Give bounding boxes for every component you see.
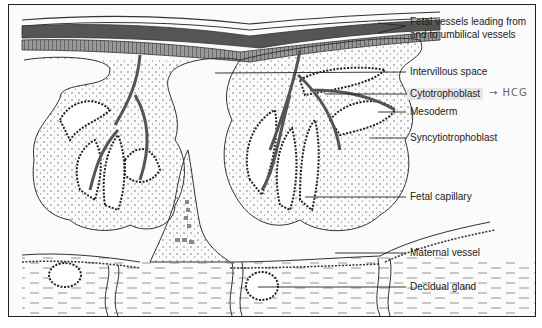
label-decidual-gland: Decidual gland bbox=[410, 281, 476, 293]
villus-left bbox=[24, 57, 240, 230]
label-cytotrophoblast: Cytotrophoblast bbox=[407, 88, 483, 100]
label-fetal-vessels-line2: and to umbilical vessels bbox=[410, 29, 516, 41]
placenta-diagram bbox=[0, 0, 542, 328]
decidual-gland-right bbox=[246, 272, 278, 300]
decidual-gland-left bbox=[49, 263, 81, 287]
label-syncytiotrophoblast: Syncytiotrophoblast bbox=[410, 132, 497, 144]
handwritten-hcg-annotation: → HCG bbox=[489, 87, 528, 98]
chorionic-plate-outer bbox=[22, 12, 440, 24]
label-fetal-vessels-line1: Fetal vessels leading from bbox=[410, 16, 526, 28]
label-maternal-vessel: Maternal vessel bbox=[410, 247, 480, 259]
label-intervillous-space: Intervillous space bbox=[410, 66, 487, 78]
label-fetal-capillary: Fetal capillary bbox=[410, 191, 472, 203]
label-mesoderm: Mesoderm bbox=[410, 106, 457, 118]
